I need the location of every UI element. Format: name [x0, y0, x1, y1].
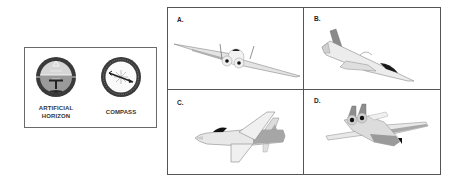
- option-d-label: D.: [314, 97, 321, 104]
- option-c[interactable]: C.: [167, 90, 303, 174]
- option-a-label: A.: [177, 16, 184, 23]
- compass-icon: [100, 56, 142, 98]
- option-b-label: B.: [314, 15, 321, 22]
- option-c-label: C.: [177, 99, 184, 106]
- option-b[interactable]: B.: [304, 7, 441, 89]
- option-d[interactable]: D.: [304, 90, 441, 174]
- artificial-horizon-icon: [35, 56, 77, 98]
- artificial-horizon-label-line2: HORIZON: [27, 112, 85, 120]
- airplane-banked-head-on-icon: [172, 32, 302, 86]
- option-a[interactable]: A.: [167, 7, 303, 89]
- airplane-diving-left-icon: [316, 23, 416, 89]
- compass-label: COMPASS: [95, 108, 147, 116]
- instrument-panel: ARTIFICIAL HORIZON COMPASS: [24, 47, 157, 128]
- airplane-banked-rear-icon: [324, 100, 432, 156]
- airplane-level-side-icon: [193, 106, 293, 168]
- artificial-horizon-label-line1: ARTIFICIAL: [27, 104, 85, 112]
